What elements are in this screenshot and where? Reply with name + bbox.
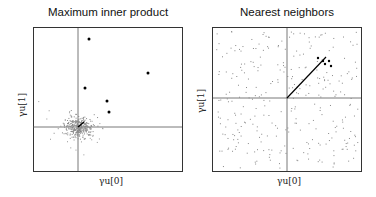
y-axis-label-right: γu[1] [196, 89, 206, 113]
x-axis-label-right: γu[0] [277, 176, 301, 186]
scatter-plot-right [0, 0, 376, 197]
